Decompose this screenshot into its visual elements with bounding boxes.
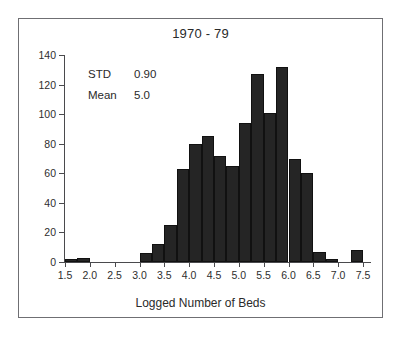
- y-tick-mark: [59, 173, 65, 174]
- y-tick-mark: [59, 232, 65, 233]
- y-tick-label: 100: [38, 108, 56, 120]
- bar: [77, 258, 89, 262]
- y-tick-mark: [59, 55, 65, 56]
- bar: [177, 169, 189, 262]
- annotation-label-mean: Mean: [88, 89, 134, 101]
- bar: [326, 259, 338, 262]
- bar: [65, 259, 77, 262]
- x-tick-label: 5.5: [256, 269, 271, 281]
- x-tick-mark: [65, 262, 66, 267]
- bar: [152, 244, 164, 262]
- x-tick-mark: [115, 262, 116, 267]
- bar: [251, 74, 263, 262]
- annotation-row-mean: Mean 5.0: [88, 89, 156, 101]
- y-tick-mark: [59, 85, 65, 86]
- y-tick-label: 60: [44, 167, 56, 179]
- bar: [289, 159, 301, 263]
- x-tick-mark: [140, 262, 141, 267]
- bar: [301, 173, 313, 262]
- y-tick-label: 40: [44, 197, 56, 209]
- x-tick-label: 5.0: [232, 269, 247, 281]
- bar: [264, 113, 276, 262]
- x-tick-label: 2.5: [107, 269, 122, 281]
- y-tick-label: 20: [44, 226, 56, 238]
- y-tick-label: 120: [38, 79, 56, 91]
- bar: [239, 123, 251, 262]
- x-tick-label: 6.0: [281, 269, 296, 281]
- x-tick-label: 6.5: [306, 269, 321, 281]
- x-tick-mark: [264, 262, 265, 267]
- y-tick-label: 0: [50, 256, 56, 268]
- x-tick-label: 3.0: [132, 269, 147, 281]
- x-tick-label: 1.5: [58, 269, 73, 281]
- bar: [140, 253, 152, 262]
- x-tick-mark: [289, 262, 290, 267]
- bar: [276, 67, 288, 262]
- x-tick-mark: [313, 262, 314, 267]
- bar: [351, 250, 363, 262]
- figure-root: 1970 - 79 020406080100120140 1.52.02.53.…: [0, 0, 417, 338]
- x-tick-mark: [338, 262, 339, 267]
- bar: [189, 144, 201, 262]
- x-tick-label: 2.0: [83, 269, 98, 281]
- x-tick-mark: [214, 262, 215, 267]
- bar: [226, 166, 238, 262]
- y-tick-mark: [59, 144, 65, 145]
- annotation-label-std: STD: [88, 68, 134, 80]
- bar: [313, 252, 325, 262]
- x-tick-label: 7.0: [331, 269, 346, 281]
- x-tick-mark: [239, 262, 240, 267]
- x-axis-line: [64, 262, 371, 263]
- x-tick-mark: [189, 262, 190, 267]
- y-tick-mark: [59, 114, 65, 115]
- x-tick-label: 4.5: [207, 269, 222, 281]
- x-tick-mark: [164, 262, 165, 267]
- annotation-row-std: STD 0.90: [88, 68, 156, 80]
- x-tick-label: 4.0: [182, 269, 197, 281]
- annotation-value-mean: 5.0: [134, 89, 150, 101]
- bar: [164, 225, 176, 262]
- y-tick-label: 140: [38, 49, 56, 61]
- bar: [214, 156, 226, 262]
- x-axis-label: Logged Number of Beds: [18, 296, 383, 310]
- statistics-annotation: STD 0.90 Mean 5.0: [88, 68, 156, 110]
- x-tick-label: 7.5: [356, 269, 371, 281]
- x-tick-mark: [90, 262, 91, 267]
- chart-title: 1970 - 79: [18, 26, 383, 41]
- annotation-value-std: 0.90: [134, 68, 156, 80]
- x-tick-mark: [363, 262, 364, 267]
- x-tick-label: 3.5: [157, 269, 172, 281]
- bar: [202, 136, 214, 262]
- y-tick-mark: [59, 203, 65, 204]
- y-tick-label: 80: [44, 138, 56, 150]
